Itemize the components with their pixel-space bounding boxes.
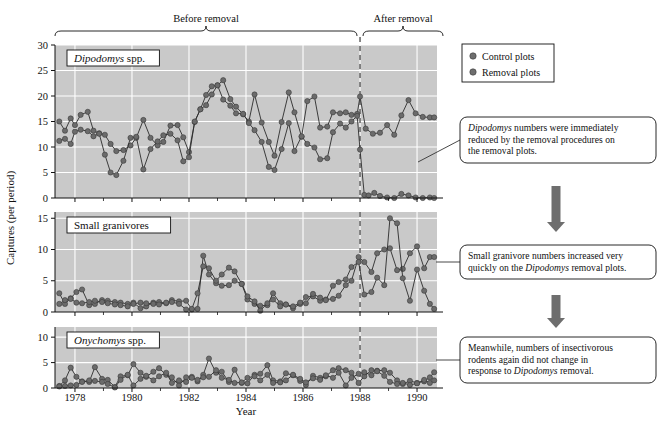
data-point bbox=[343, 277, 348, 282]
figure-container: 051015202530Dipodomys spp.051015Small gr… bbox=[0, 0, 662, 426]
y-tick-label: 5 bbox=[43, 167, 48, 178]
data-point bbox=[349, 264, 354, 269]
flow-arrow-head-2 bbox=[547, 318, 565, 328]
data-point bbox=[108, 141, 113, 146]
y-tick-label: 30 bbox=[38, 40, 49, 51]
data-point bbox=[156, 366, 161, 371]
data-point bbox=[92, 298, 97, 303]
data-point bbox=[422, 266, 427, 271]
data-point bbox=[203, 92, 208, 97]
data-point bbox=[387, 379, 392, 384]
data-point bbox=[252, 374, 257, 379]
data-point bbox=[387, 246, 392, 251]
data-point bbox=[336, 279, 341, 284]
data-point bbox=[406, 193, 411, 198]
data-point bbox=[265, 301, 270, 306]
multi-panel-time-series-chart: 051015202530Dipodomys spp.051015Small gr… bbox=[0, 0, 662, 426]
data-point bbox=[125, 304, 130, 309]
data-point bbox=[151, 378, 156, 383]
data-point bbox=[362, 259, 367, 264]
x-tick-label: 1984 bbox=[236, 392, 258, 403]
annotation-text-line: reduced by the removal procedures on bbox=[468, 134, 615, 145]
data-point bbox=[215, 83, 220, 88]
data-point bbox=[184, 379, 189, 384]
data-point bbox=[420, 114, 425, 119]
data-point bbox=[303, 380, 308, 385]
data-point bbox=[375, 369, 380, 374]
data-point bbox=[192, 119, 197, 124]
annotation-2: Small granivore numbers increased veryqu… bbox=[436, 245, 656, 279]
data-point bbox=[432, 378, 437, 383]
data-point bbox=[258, 378, 263, 383]
bracket-2 bbox=[363, 26, 443, 36]
data-point bbox=[79, 379, 84, 384]
bracket-label: After removal bbox=[373, 13, 432, 24]
data-point bbox=[318, 295, 323, 300]
data-point bbox=[400, 380, 405, 385]
panel-title: Onychomys spp. bbox=[74, 334, 146, 346]
data-point bbox=[148, 146, 153, 151]
data-point bbox=[399, 191, 404, 196]
data-point bbox=[375, 251, 380, 256]
data-point bbox=[272, 153, 277, 158]
data-point bbox=[369, 269, 374, 274]
data-point bbox=[349, 278, 354, 283]
x-axis-label: Year bbox=[236, 405, 257, 417]
data-point bbox=[343, 283, 348, 288]
data-point bbox=[298, 300, 303, 305]
data-point bbox=[68, 365, 73, 370]
flow-arrow-shaft-1 bbox=[552, 186, 561, 223]
data-point bbox=[325, 124, 330, 129]
data-point bbox=[156, 374, 161, 379]
data-point bbox=[323, 373, 328, 378]
data-point bbox=[290, 372, 295, 377]
x-tick-label: 1988 bbox=[350, 392, 371, 403]
data-point bbox=[266, 139, 271, 144]
data-point bbox=[186, 150, 191, 155]
data-point bbox=[228, 96, 233, 101]
data-point bbox=[155, 139, 160, 144]
data-point bbox=[181, 159, 186, 164]
data-point bbox=[318, 157, 323, 162]
data-point bbox=[105, 301, 110, 306]
data-point bbox=[336, 370, 341, 375]
data-point bbox=[219, 369, 224, 374]
y-tick-label: 25 bbox=[38, 65, 49, 76]
y-tick-label: 0 bbox=[43, 307, 48, 318]
data-point bbox=[382, 368, 387, 373]
data-point bbox=[144, 301, 149, 306]
data-point bbox=[356, 254, 361, 259]
data-point bbox=[239, 281, 244, 286]
data-point bbox=[68, 141, 73, 146]
data-point bbox=[105, 381, 110, 386]
data-point bbox=[407, 298, 412, 303]
panel-1: 051015202530Dipodomys spp. bbox=[38, 37, 444, 204]
data-point bbox=[259, 139, 264, 144]
data-point bbox=[78, 127, 83, 132]
data-point bbox=[370, 131, 375, 136]
data-point bbox=[186, 155, 191, 160]
data-point bbox=[387, 216, 392, 221]
panel-title: Dipodomys spp. bbox=[73, 52, 145, 64]
data-point bbox=[91, 128, 96, 133]
data-point bbox=[337, 121, 342, 126]
data-point bbox=[303, 301, 308, 306]
annotation-text-line: Meanwhile, numbers of insectivorous bbox=[468, 342, 613, 353]
data-point bbox=[422, 288, 427, 293]
annotation-text-line: Dipodomys numbers were immediately bbox=[467, 122, 619, 133]
panel-3: 0510Onychomys spp. bbox=[38, 327, 444, 394]
data-point bbox=[206, 272, 211, 277]
data-point bbox=[366, 193, 371, 198]
data-point bbox=[385, 122, 390, 127]
data-point bbox=[62, 298, 67, 303]
data-point bbox=[161, 133, 166, 138]
data-point bbox=[131, 383, 136, 388]
data-point bbox=[72, 122, 77, 127]
data-point bbox=[184, 307, 189, 312]
data-point bbox=[161, 139, 166, 144]
data-point bbox=[57, 301, 62, 306]
data-point bbox=[233, 104, 238, 109]
data-point bbox=[369, 289, 374, 294]
data-point bbox=[382, 283, 387, 288]
data-point bbox=[270, 380, 275, 385]
